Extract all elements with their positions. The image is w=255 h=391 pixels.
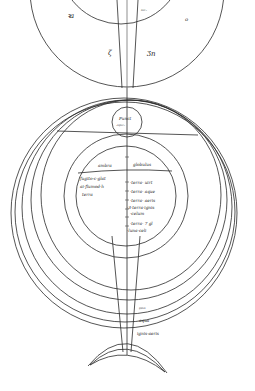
sphere-header-left: ambra xyxy=(98,163,112,168)
sphere-right-line-2: ·terra· aque xyxy=(130,189,156,194)
upper-inner-circle xyxy=(59,0,183,24)
junction-label-1: Punct xyxy=(118,116,132,121)
sphere-header-right: globulus xyxy=(133,162,151,167)
sphere-backdrop xyxy=(60,127,192,259)
crescent-outer-edge xyxy=(88,344,167,373)
label-cone-right: Ʒn xyxy=(146,50,156,58)
label-upper-right: o xyxy=(185,16,188,22)
cone-line-left xyxy=(117,0,122,88)
label-cone-left: ζ xyxy=(108,49,113,57)
sphere-right-line-3: ·terra· aeris xyxy=(130,198,155,203)
label-upper-left: ꝛa xyxy=(67,12,74,20)
band-label-3: ignis·aeris xyxy=(137,331,159,336)
label-upper-inner: ᵃᵘᶜ· xyxy=(141,8,147,13)
band-label-2: aqua xyxy=(139,318,150,323)
sphere-right-line-1: ·terra· uirt xyxy=(130,180,153,185)
junction-label-2: ·ᵃᵍᵘᵉ· xyxy=(116,123,125,128)
sphere-right-line-5: ·celum xyxy=(130,211,144,216)
sphere-right-line-6: ·terra· 7 gl xyxy=(130,221,153,226)
diagram-svg: ꝛa o ᵃᵘᶜ· ζ Ʒn xyxy=(0,0,255,391)
band-label-1: ᵍᵖᵘᵃ xyxy=(139,306,146,311)
sphere-left-line-2: ai·flumod·h xyxy=(80,184,104,189)
lower-figure: Punct ·ᵃᵍᵘᵉ· ambra globulus fugito·c·gla… xyxy=(11,88,237,373)
cone-line-right xyxy=(133,0,138,88)
sphere-right-line-7: ·luna·celi xyxy=(127,228,147,233)
sphere-left-line-3: terra xyxy=(82,192,93,197)
manuscript-diagram: ꝛa o ᵃᵘᶜ· ζ Ʒn xyxy=(0,0,255,391)
sphere-left-line-1: fugito·c·glat xyxy=(79,176,106,181)
sphere-right-line-4: ·3·terra·ignis xyxy=(127,205,155,210)
upper-figure: ꝛa o ᵃᵘᶜ· ζ Ʒn xyxy=(30,0,224,88)
